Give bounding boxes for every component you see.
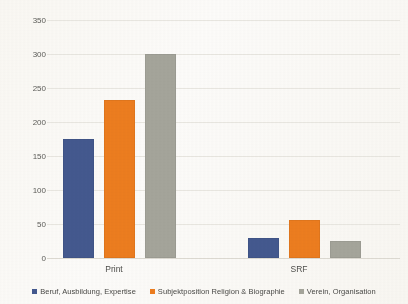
y-tick-200: 200	[10, 118, 46, 127]
bar-srf-series-2[interactable]	[330, 241, 361, 258]
y-tick-100: 100	[10, 186, 46, 195]
legend-item-2[interactable]: Verein, Organisation	[299, 287, 376, 296]
bar-fill	[63, 139, 94, 258]
gridline-0	[47, 258, 400, 259]
chart-title	[55, 0, 315, 3]
bar-print-series-0[interactable]	[63, 139, 94, 258]
chart-legend: Beruf, Ausbildung, ExpertiseSubjektposit…	[0, 284, 408, 298]
y-tick-250: 250	[10, 84, 46, 93]
bar-fill	[289, 220, 320, 258]
legend-swatch-icon	[32, 289, 37, 294]
plot-area: 050100150200250300350	[47, 20, 400, 258]
legend-swatch-icon	[299, 289, 304, 294]
y-tick-0: 0	[10, 254, 46, 263]
bar-fill	[248, 238, 279, 258]
x-axis-label-print: Print	[84, 264, 144, 274]
bar-srf-series-0[interactable]	[248, 238, 279, 258]
bar-srf-series-1[interactable]	[289, 220, 320, 258]
legend-swatch-icon	[150, 289, 155, 294]
bar-print-series-1[interactable]	[104, 100, 135, 258]
scanned-page: 050100150200250300350 Print SRF Beruf, A…	[0, 0, 408, 304]
legend-label: Beruf, Ausbildung, Expertise	[40, 287, 136, 296]
x-axis-label-srf: SRF	[269, 264, 329, 274]
bar-fill	[104, 100, 135, 258]
y-tick-150: 150	[10, 152, 46, 161]
legend-label: Subjektposition Religion & Biographie	[158, 287, 285, 296]
bar-fill	[145, 54, 176, 258]
bar-fill	[330, 241, 361, 258]
bar-print-series-2[interactable]	[145, 54, 176, 258]
legend-item-1[interactable]: Subjektposition Religion & Biographie	[150, 287, 285, 296]
y-tick-350: 350	[10, 16, 46, 25]
bar-group-srf	[248, 20, 378, 258]
legend-label: Verein, Organisation	[307, 287, 376, 296]
y-tick-300: 300	[10, 50, 46, 59]
bar-chart-figure: 050100150200250300350 Print SRF Beruf, A…	[0, 0, 408, 304]
bar-group-print	[63, 20, 193, 258]
legend-item-0[interactable]: Beruf, Ausbildung, Expertise	[32, 287, 136, 296]
y-tick-50: 50	[10, 220, 46, 229]
